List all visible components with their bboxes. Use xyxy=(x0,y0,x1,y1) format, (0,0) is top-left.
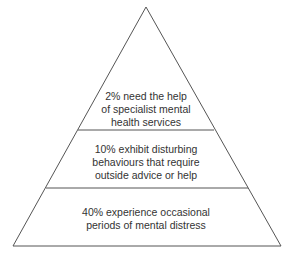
tier-top-label: 2% need the help of specialist mental he… xyxy=(86,90,206,129)
tier-top-line-2: of specialist mental xyxy=(86,103,206,116)
tier-top-line-3: health services xyxy=(86,116,206,129)
tier-bottom-line-1: 40% experience occasional xyxy=(66,206,226,219)
tier-top-line-1: 2% need the help xyxy=(86,90,206,103)
tier-middle-label: 10% exhibit disturbing behaviours that r… xyxy=(76,143,216,182)
tier-bottom-label: 40% experience occasional periods of men… xyxy=(66,206,226,232)
tier-middle-line-1: 10% exhibit disturbing xyxy=(76,143,216,156)
tier-bottom-line-2: periods of mental distress xyxy=(66,219,226,232)
pyramid-diagram: 2% need the help of specialist mental he… xyxy=(0,0,293,253)
tier-middle-line-3: outside advice or help xyxy=(76,169,216,182)
tier-middle-line-2: behaviours that require xyxy=(76,156,216,169)
